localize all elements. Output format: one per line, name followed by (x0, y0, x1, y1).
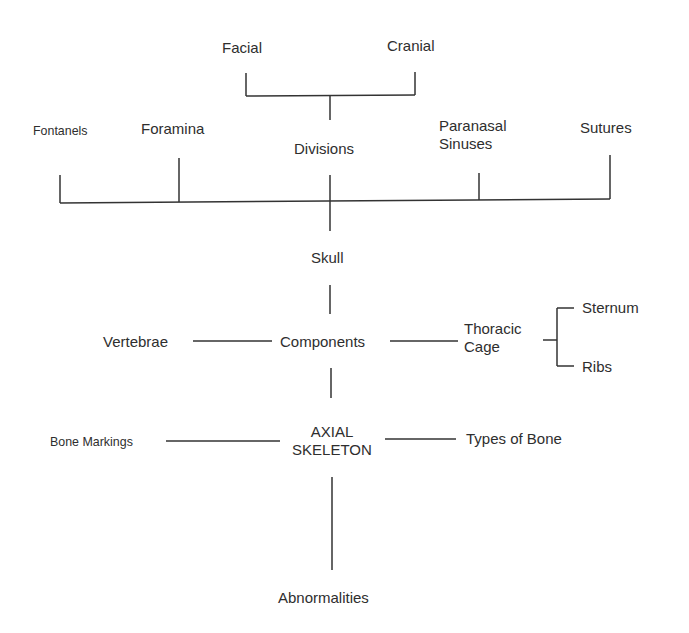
node-sutures: Sutures (580, 119, 632, 137)
node-divisions: Divisions (294, 140, 354, 158)
node-ribs: Ribs (582, 358, 612, 376)
node-cranial: Cranial (387, 37, 435, 55)
node-fontanels: Fontanels (33, 122, 88, 140)
connector-skull-bar (60, 199, 610, 203)
node-foramina: Foramina (141, 120, 204, 138)
paranasal-line1: Paranasal (439, 117, 507, 135)
node-bone-markings: Bone Markings (50, 433, 133, 451)
paranasal-line2: Sinuses (439, 135, 507, 153)
connector-divisions-bar (246, 95, 415, 96)
node-sternum: Sternum (582, 299, 639, 317)
axial-line2: SKELETON (279, 441, 385, 459)
node-skull: Skull (311, 249, 344, 267)
node-facial: Facial (222, 39, 262, 57)
concept-map: Facial Cranial Fontanels Foramina Divisi… (0, 0, 689, 633)
node-types-of-bone: Types of Bone (466, 430, 562, 448)
thoracic-line2: Cage (464, 338, 522, 356)
node-thoracic-cage: Thoracic Cage (464, 320, 522, 356)
node-axial-skeleton: AXIAL SKELETON (279, 423, 385, 459)
node-vertebrae: Vertebrae (103, 333, 168, 351)
node-abnormalities: Abnormalities (278, 589, 369, 607)
axial-line1: AXIAL (279, 423, 385, 441)
thoracic-line1: Thoracic (464, 320, 522, 338)
node-components: Components (280, 333, 365, 351)
node-paranasal-sinuses: Paranasal Sinuses (439, 117, 507, 153)
